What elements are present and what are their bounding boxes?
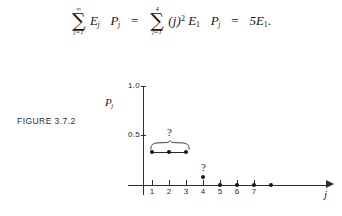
brace-over-points-1-3 (150, 140, 190, 150)
paren-j: (j) (168, 13, 181, 28)
data-point-j4 (201, 175, 205, 179)
equation-result: 5E1. (249, 13, 271, 29)
summation-1: ∞ ∑ j=1 (72, 6, 86, 35)
subscript-1: 1 (196, 20, 200, 29)
x-tick-mark-4 (203, 180, 204, 185)
term-P-j-2: Pj (211, 13, 221, 29)
term-E-j: Ej (90, 13, 100, 29)
summation-2-sigma: ∑ (150, 12, 164, 28)
period: . (268, 13, 271, 28)
summation-2-lower-limit: j=1 (150, 28, 164, 35)
x-tick-mark-2 (169, 180, 170, 185)
x-tick-mark-3 (186, 180, 187, 185)
data-point-j2 (167, 150, 171, 154)
x-tick-label-1: 1 (146, 187, 158, 196)
plot-area: Pj j 1.0 0.5 1 2 3 4 5 6 7 (100, 78, 342, 198)
term-paren-j-squared: (j)2 (168, 13, 185, 29)
y-tick-mark-0.5 (141, 135, 146, 136)
x-tick-label-2: 2 (163, 187, 175, 196)
exponent-2: 2 (181, 14, 185, 23)
x-axis-arrow-icon (326, 180, 334, 188)
summation-2: 4 ∑ j=1 (150, 6, 164, 35)
term-E-1: E1 (188, 13, 200, 29)
x-axis-line (128, 185, 328, 186)
x-tick-label-6: 6 (231, 187, 243, 196)
term-P-j: Pj (111, 13, 121, 29)
y-axis-label-subscript: j (111, 102, 113, 110)
data-point-j8 (269, 183, 273, 187)
subscript-j: j (218, 20, 220, 29)
x-tick-label-3: 3 (180, 187, 192, 196)
equals-sign-2: = (231, 13, 238, 29)
y-tick-mark-1.0 (141, 86, 146, 87)
subscript-j: j (97, 20, 99, 29)
question-mark-point-4: ? (201, 161, 206, 173)
x-tick-mark-1 (152, 180, 153, 185)
equals-sign-1: = (131, 13, 138, 29)
y-axis-line (143, 86, 144, 195)
x-tick-label-4: 4 (197, 187, 209, 196)
question-mark-brace: ? (167, 126, 172, 138)
data-point-j3 (184, 150, 188, 154)
figure-caption: FIGURE 3.7.2 (17, 116, 76, 126)
figure-page: ∞ ∑ j=1 Ej Pj = 4 ∑ j=1 (j)2 E1 Pj = 5E1… (0, 0, 342, 216)
result-5E: 5E (249, 13, 264, 28)
y-tick-label-0.5: 0.5 (128, 130, 140, 139)
y-tick-label-1.0: 1.0 (128, 81, 140, 90)
data-point-j1 (150, 150, 154, 154)
equation-line: ∞ ∑ j=1 Ej Pj = 4 ∑ j=1 (j)2 E1 Pj = 5E1… (71, 6, 271, 35)
subscript-j: j (118, 20, 120, 29)
display-equation: ∞ ∑ j=1 Ej Pj = 4 ∑ j=1 (j)2 E1 Pj = 5E1… (0, 6, 342, 35)
x-tick-label-5: 5 (214, 187, 226, 196)
summation-1-lower-limit: j=1 (72, 28, 86, 35)
x-tick-label-7: 7 (248, 187, 260, 196)
summation-1-sigma: ∑ (72, 12, 86, 28)
x-axis-label: j (324, 188, 327, 200)
y-axis-label: Pj (105, 96, 113, 110)
